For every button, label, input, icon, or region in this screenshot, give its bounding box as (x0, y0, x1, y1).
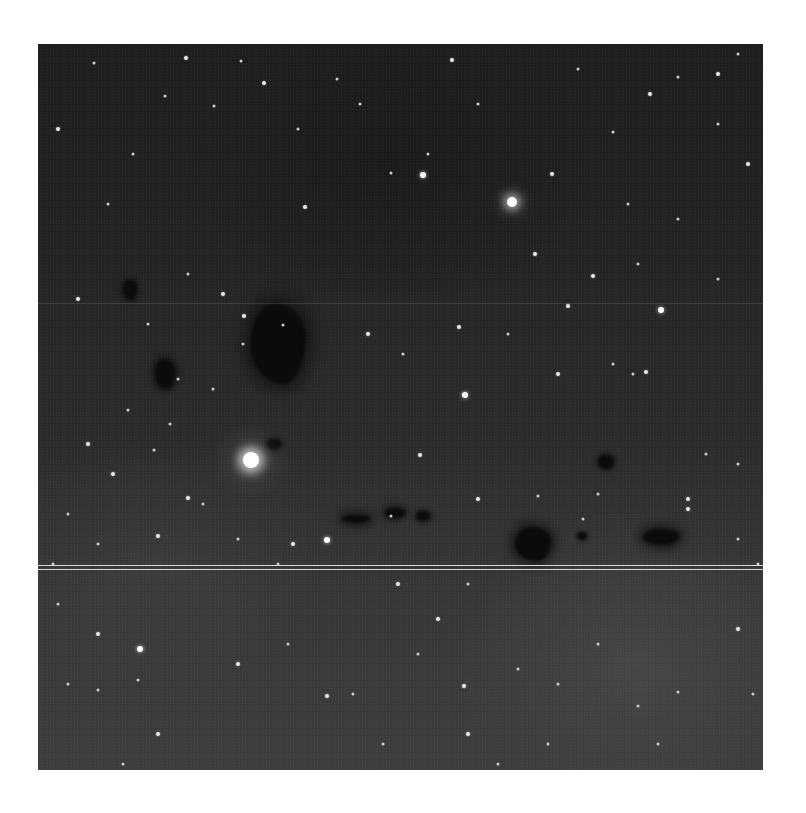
star (390, 172, 393, 175)
scan-artifact-line (38, 565, 763, 566)
star (716, 72, 720, 76)
star (67, 513, 70, 516)
star (137, 679, 140, 682)
star (537, 495, 540, 498)
bright-star (507, 197, 517, 207)
dark-nebula (598, 455, 614, 469)
star (97, 543, 100, 546)
star (111, 472, 115, 476)
star (96, 632, 100, 636)
star (550, 172, 554, 176)
scan-artifact-line (38, 569, 763, 570)
dark-nebula (155, 359, 175, 389)
bright-star (137, 646, 143, 652)
star (677, 218, 680, 221)
star (677, 691, 680, 694)
star (237, 538, 240, 541)
star (67, 683, 70, 686)
star (213, 105, 216, 108)
star (632, 373, 635, 376)
star (352, 693, 355, 696)
star (417, 653, 420, 656)
star (637, 263, 640, 266)
dark-nebula (643, 529, 679, 545)
star (262, 81, 266, 85)
star (648, 92, 652, 96)
star (477, 103, 480, 106)
star (466, 732, 470, 736)
scan-artifact-line (38, 303, 763, 304)
star (746, 162, 750, 166)
star (644, 370, 648, 374)
star (186, 496, 190, 500)
star (736, 627, 740, 631)
bright-star (418, 453, 422, 457)
star (221, 292, 225, 296)
star (156, 732, 160, 736)
star (517, 668, 520, 671)
star (752, 693, 755, 696)
star (132, 153, 135, 156)
star (169, 423, 172, 426)
star-field-photo (38, 44, 763, 770)
bright-star (420, 172, 426, 178)
dark-nebula (577, 532, 587, 540)
star (202, 503, 205, 506)
star (677, 76, 680, 79)
bright-star (462, 392, 468, 398)
star (450, 58, 454, 62)
star (86, 442, 90, 446)
star (359, 103, 362, 106)
star (127, 409, 130, 412)
star (164, 95, 167, 98)
star (147, 323, 150, 326)
star (390, 515, 393, 518)
dark-nebula (251, 304, 306, 384)
star (717, 278, 720, 281)
star (240, 60, 243, 63)
dark-nebula (123, 280, 137, 300)
bright-star (533, 252, 537, 256)
star (297, 128, 300, 131)
star (737, 538, 740, 541)
star (366, 332, 370, 336)
star (705, 453, 708, 456)
star (737, 53, 740, 56)
star (557, 683, 560, 686)
star (57, 603, 60, 606)
dark-nebula (416, 511, 430, 521)
star (507, 333, 510, 336)
star (122, 763, 125, 766)
star (76, 297, 80, 301)
star (577, 68, 580, 71)
dark-nebula (267, 439, 281, 449)
star (303, 205, 307, 209)
star (686, 507, 690, 511)
film-grain (38, 44, 763, 770)
star (382, 743, 385, 746)
star (556, 372, 560, 376)
star (566, 304, 570, 308)
star (291, 542, 295, 546)
star (737, 463, 740, 466)
star (97, 689, 100, 692)
star (156, 534, 160, 538)
dark-nebula (342, 515, 370, 523)
star (93, 62, 96, 65)
star (287, 643, 290, 646)
star (56, 127, 60, 131)
star (597, 493, 600, 496)
star (402, 353, 405, 356)
bright-star (243, 452, 259, 468)
star (597, 643, 600, 646)
bright-star (325, 694, 329, 698)
bright-star (457, 325, 461, 329)
dark-nebula (515, 527, 551, 561)
star (187, 273, 190, 276)
star (657, 743, 660, 746)
star (427, 153, 430, 156)
star (497, 763, 500, 766)
bright-star (658, 307, 664, 313)
dark-nebula (385, 508, 405, 518)
star (612, 131, 615, 134)
